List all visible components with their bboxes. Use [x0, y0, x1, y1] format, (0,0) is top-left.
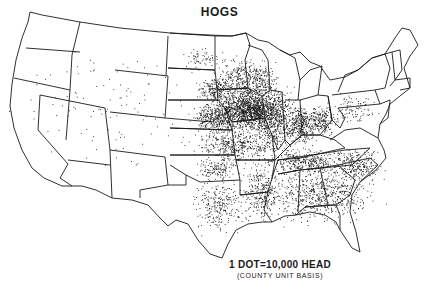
- dot-density-map: HOGS 1 DOT=10,000 HEAD (COUNTY UNIT BASI…: [0, 0, 439, 295]
- us-map-svg: [0, 0, 439, 295]
- map-title: HOGS: [0, 5, 439, 19]
- hog-density-dots: [9, 48, 387, 236]
- legend-dot-value: 1 DOT=10,000 HEAD: [210, 259, 350, 270]
- legend-basis: (COUNTY UNIT BASIS): [210, 272, 350, 279]
